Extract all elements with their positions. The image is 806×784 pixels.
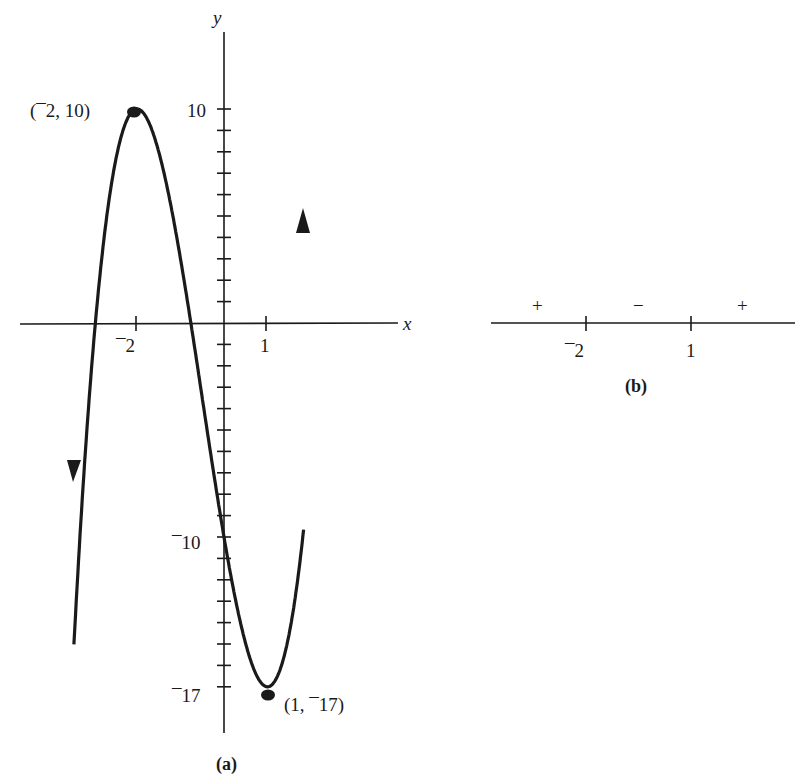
arrow-down-icon (67, 460, 81, 482)
x-axis (20, 323, 398, 324)
sign-chart-b: ¯2 1 + − + (b) (491, 295, 795, 397)
y-tick-label-neg10: ¯10 (171, 532, 201, 553)
sign-right: + (737, 295, 748, 316)
y-tick-label-10: 10 (187, 100, 206, 121)
sign-middle: − (633, 295, 644, 316)
b-tick-label-neg2: ¯2 (564, 340, 584, 361)
cubic-curve (74, 109, 304, 687)
max-point-label: (¯2, 10) (30, 100, 90, 122)
b-tick-label-1: 1 (686, 340, 696, 361)
max-point-dot (127, 107, 141, 118)
figure: x y ¯2 1 10 ¯10 ¯17 (¯2, 10) (1, ¯17) (a… (0, 0, 806, 784)
min-point-label: (1, ¯17) (284, 694, 344, 716)
sign-left: + (532, 295, 543, 316)
graph-a: x y ¯2 1 10 ¯10 ¯17 (¯2, 10) (1, ¯17) (a… (20, 7, 412, 775)
caption-b: (b) (625, 376, 647, 397)
arrow-up-icon (296, 208, 310, 233)
y-tick-label-neg17: ¯17 (171, 685, 201, 706)
min-point-dot (261, 690, 275, 701)
x-tick-label-1: 1 (260, 335, 270, 356)
caption-a: (a) (216, 754, 237, 775)
x-axis-label: x (402, 313, 412, 334)
x-tick-label-neg2: ¯2 (115, 335, 135, 356)
y-axis-label: y (211, 7, 222, 28)
